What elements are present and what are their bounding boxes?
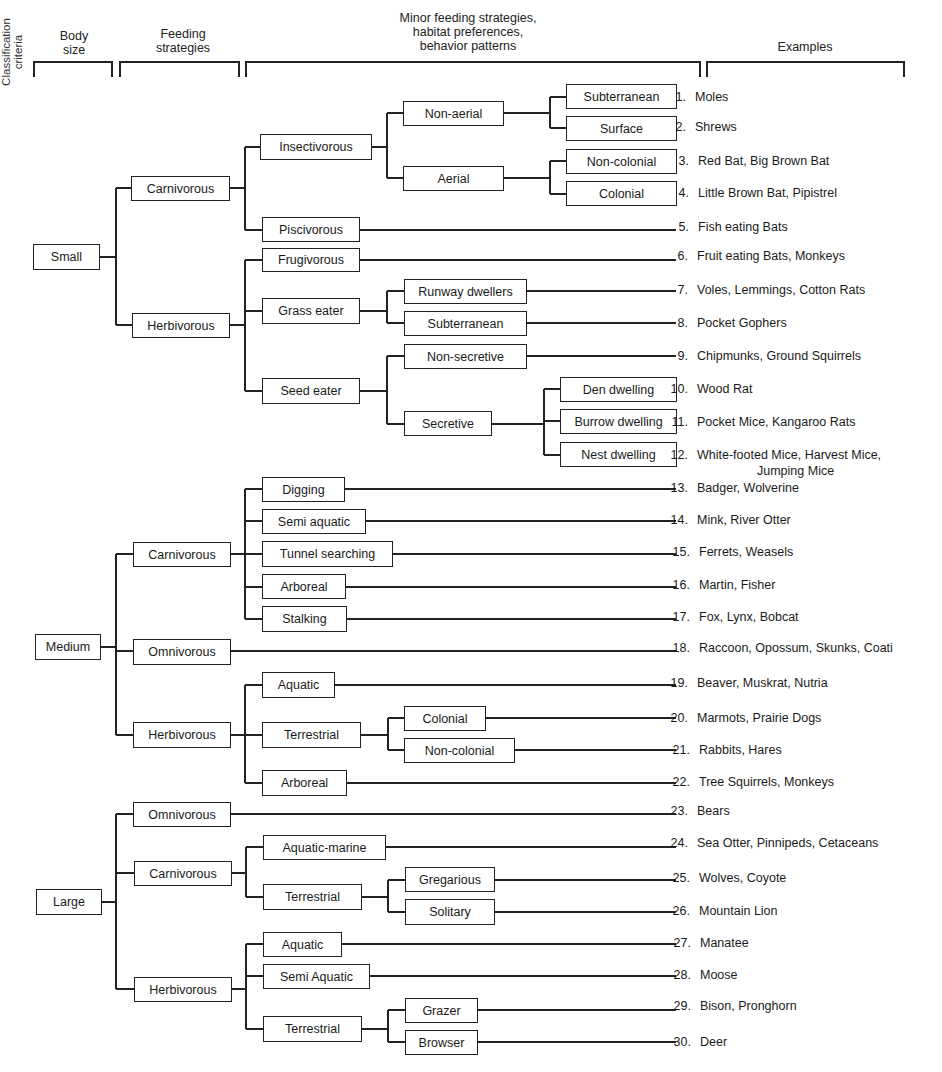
node-medium[interactable]: Medium (35, 634, 101, 660)
example-item: 7.Voles, Lemmings, Cotton Rats (664, 283, 865, 297)
example-item: 21.Rabbits, Hares (666, 743, 782, 757)
node-browser[interactable]: Browser (405, 1030, 478, 1055)
example-number: 20. (664, 711, 688, 725)
node-large-carnivorous[interactable]: Carnivorous (134, 861, 232, 886)
node-stalking[interactable]: Stalking (262, 606, 347, 632)
example-item: 30.Deer (667, 1035, 727, 1049)
node-semi-aquatic-large[interactable]: Semi Aquatic (263, 964, 370, 989)
node-den-dwelling[interactable]: Den dwelling (560, 377, 677, 402)
node-terrestrial-carnivore[interactable]: Terrestrial (263, 884, 362, 910)
example-item: 14.Mink, River Otter (664, 513, 791, 527)
node-aquatic-marine[interactable]: Aquatic-marine (263, 835, 386, 860)
example-item: 16.Martin, Fisher (666, 578, 775, 592)
node-gregarious[interactable]: Gregarious (405, 867, 495, 892)
node-seed-eater[interactable]: Seed eater (262, 378, 360, 404)
example-text: Raccoon, Opossum, Skunks, Coati (699, 641, 893, 655)
example-text: Little Brown Bat, Pipistrel (698, 186, 837, 200)
example-item: 11.Pocket Mice, Kangaroo Rats (664, 415, 855, 429)
node-small[interactable]: Small (33, 244, 100, 270)
node-large[interactable]: Large (36, 889, 102, 915)
node-small-herbivorous[interactable]: Herbivorous (132, 313, 230, 338)
node-aerial[interactable]: Aerial (403, 166, 504, 191)
example-number: 5. (665, 220, 689, 234)
example-text: Ferrets, Weasels (699, 545, 793, 559)
example-text: Bison, Pronghorn (700, 999, 797, 1013)
node-colonial-rodent[interactable]: Colonial (404, 706, 486, 731)
node-non-aerial[interactable]: Non-aerial (403, 101, 504, 126)
example-number: 8. (664, 316, 688, 330)
example-text: Martin, Fisher (699, 578, 775, 592)
example-text: Red Bat, Big Brown Bat (698, 154, 829, 168)
example-text: Deer (700, 1035, 727, 1049)
example-item: 19.Beaver, Muskrat, Nutria (664, 676, 828, 690)
node-medium-omnivorous[interactable]: Omnivorous (133, 639, 231, 665)
example-item: 24.Sea Otter, Pinnipeds, Cetaceans (664, 836, 878, 850)
example-item: 13.Badger, Wolverine (664, 481, 799, 495)
example-text: Mountain Lion (699, 904, 778, 918)
node-non-secretive[interactable]: Non-secretive (404, 344, 527, 369)
example-text: Moose (700, 968, 738, 982)
node-piscivorous[interactable]: Piscivorous (262, 217, 360, 242)
example-number: 2. (662, 120, 686, 134)
example-text-continued: Jumping Mice (757, 464, 834, 478)
node-frugivorous[interactable]: Frugivorous (262, 248, 360, 272)
example-number: 12. (664, 448, 688, 462)
node-arboreal-herbivore[interactable]: Arboreal (262, 770, 347, 796)
example-text: Marmots, Prairie Dogs (697, 711, 821, 725)
example-item: 2.Shrews (662, 120, 737, 134)
example-item: 18.Raccoon, Opossum, Skunks, Coati (666, 641, 893, 655)
node-semi-aquatic-medium[interactable]: Semi aquatic (262, 509, 366, 534)
example-text: Badger, Wolverine (697, 481, 799, 495)
node-small-carnivorous[interactable]: Carnivorous (131, 176, 230, 201)
example-number: 25. (666, 871, 690, 885)
node-non-colonial-rodent[interactable]: Non-colonial (404, 738, 515, 763)
example-text: Beaver, Muskrat, Nutria (697, 676, 828, 690)
example-text: Voles, Lemmings, Cotton Rats (697, 283, 865, 297)
node-large-omnivorous[interactable]: Omnivorous (133, 802, 231, 827)
example-item: 23.Bears (664, 804, 730, 818)
node-subterranean-insectivore[interactable]: Subterranean (566, 84, 677, 109)
node-surface[interactable]: Surface (566, 116, 677, 141)
example-item: 28.Moose (667, 968, 738, 982)
node-tunnel-searching[interactable]: Tunnel searching (262, 541, 393, 567)
node-large-herbivorous[interactable]: Herbivorous (134, 977, 232, 1002)
node-burrow-dwelling[interactable]: Burrow dwelling (560, 409, 677, 434)
node-subterranean-grass[interactable]: Subterranean (404, 311, 527, 336)
node-arboreal-carnivore[interactable]: Arboreal (262, 574, 346, 599)
example-number: 3. (665, 154, 689, 168)
node-nest-dwelling[interactable]: Nest dwelling (560, 442, 677, 467)
node-medium-carnivorous[interactable]: Carnivorous (133, 542, 231, 567)
example-text: Fish eating Bats (698, 220, 788, 234)
example-number: 4. (665, 186, 689, 200)
node-insectivorous[interactable]: Insectivorous (260, 134, 372, 160)
example-text: Fox, Lynx, Bobcat (699, 610, 799, 624)
node-aquatic-medium[interactable]: Aquatic (262, 672, 335, 698)
example-item: 22.Tree Squirrels, Monkeys (666, 775, 834, 789)
node-runway-dwellers[interactable]: Runway dwellers (404, 279, 527, 304)
node-aquatic-large[interactable]: Aquatic (263, 932, 342, 957)
node-medium-herbivorous[interactable]: Herbivorous (133, 722, 231, 748)
example-text: Wood Rat (697, 382, 752, 396)
node-grass-eater[interactable]: Grass eater (262, 298, 360, 324)
example-text: Shrews (695, 120, 737, 134)
example-text: Mink, River Otter (697, 513, 791, 527)
example-number: 7. (664, 283, 688, 297)
example-item: 29.Bison, Pronghorn (667, 999, 797, 1013)
node-terrestrial-medium[interactable]: Terrestrial (262, 722, 361, 748)
example-item: 9.Chipmunks, Ground Squirrels (664, 349, 861, 363)
example-text: Wolves, Coyote (699, 871, 786, 885)
example-number: 1. (662, 90, 686, 104)
example-item: 20.Marmots, Prairie Dogs (664, 711, 821, 725)
node-grazer[interactable]: Grazer (405, 998, 478, 1023)
example-number: 13. (664, 481, 688, 495)
node-non-colonial-bat[interactable]: Non-colonial (566, 149, 677, 174)
example-item: 5.Fish eating Bats (665, 220, 788, 234)
node-secretive[interactable]: Secretive (404, 411, 492, 436)
node-colonial-bat[interactable]: Colonial (566, 181, 677, 206)
node-solitary[interactable]: Solitary (405, 899, 495, 925)
node-terrestrial-large-herbivore[interactable]: Terrestrial (263, 1016, 362, 1042)
example-text: Pocket Gophers (697, 316, 787, 330)
example-number: 11. (664, 415, 688, 429)
example-text: Manatee (700, 936, 749, 950)
node-digging[interactable]: Digging (262, 477, 345, 502)
